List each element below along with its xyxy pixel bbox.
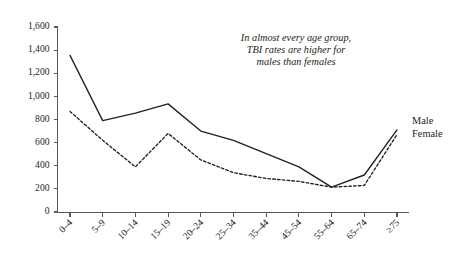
x-tick-label: 20–24	[180, 216, 205, 241]
x-tick-label: 35–44	[246, 216, 271, 241]
annotation-line-2: TBI rates are higher for	[247, 44, 347, 55]
y-tick-label: 200	[35, 182, 50, 193]
legend-label-male: Male	[412, 115, 434, 126]
x-tick-group: 0–45–910–1415–1920–2425–3435–4445–5455–6…	[56, 212, 401, 241]
x-tick-label: 65–74	[344, 216, 369, 241]
x-tick-label: 25–34	[213, 216, 238, 241]
y-tick-label: 0	[45, 205, 50, 216]
line-chart: 02004006008001,0001,2001,4001,600 0–45–9…	[0, 0, 452, 257]
y-tick-label: 1,000	[28, 90, 50, 101]
series-line-female	[70, 111, 397, 187]
x-tick-label: 45–54	[279, 216, 304, 241]
x-axis: 0–45–910–1415–1920–2425–3435–4445–5455–6…	[56, 212, 409, 241]
x-tick-label: ≥75	[383, 216, 401, 234]
chart-annotation: In almost every age group, TBI rates are…	[240, 32, 351, 67]
x-tick-label: 5–9	[89, 216, 107, 234]
y-axis: 02004006008001,0001,2001,4001,600	[28, 20, 58, 216]
y-tick-group: 02004006008001,0001,2001,4001,600	[28, 20, 58, 216]
x-tick-label: 10–14	[115, 216, 140, 241]
y-tick-label: 1,400	[28, 43, 50, 54]
x-tick-label: 55–64	[311, 216, 336, 241]
legend-label-female: Female	[412, 128, 443, 139]
data-series-group	[70, 55, 397, 187]
y-tick-label: 400	[35, 159, 50, 170]
annotation-line-3: males than females	[257, 56, 336, 67]
y-tick-label: 1,600	[28, 20, 50, 31]
y-tick-label: 600	[35, 136, 50, 147]
chart-legend: Male Female	[412, 115, 443, 139]
series-line-male	[70, 55, 397, 187]
chart-container: 02004006008001,0001,2001,4001,600 0–45–9…	[0, 0, 452, 257]
y-tick-label: 800	[35, 113, 50, 124]
y-tick-label: 1,200	[28, 66, 50, 77]
x-tick-label: 0–4	[56, 216, 74, 234]
annotation-line-1: In almost every age group,	[240, 32, 351, 43]
x-tick-label: 15–19	[148, 216, 173, 241]
